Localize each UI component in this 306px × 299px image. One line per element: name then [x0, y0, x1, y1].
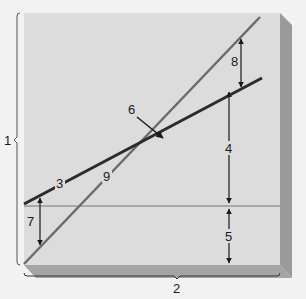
horizontal-axis-label: 2	[173, 281, 180, 296]
gap-label-5: 5	[225, 229, 232, 244]
gap-label-4: 4	[225, 141, 232, 156]
line-3-label: 3	[56, 176, 63, 191]
intersection-label: 6	[128, 102, 135, 117]
vertical-axis-label: 1	[4, 133, 11, 148]
line-9-label: 9	[103, 169, 110, 184]
gap-label-8: 8	[231, 54, 238, 69]
gap-label-7: 7	[27, 214, 34, 229]
diagram-canvas: 1 2 3 9 6 8 4 5 7	[0, 0, 306, 299]
vertical-axis-bracket	[14, 13, 20, 265]
